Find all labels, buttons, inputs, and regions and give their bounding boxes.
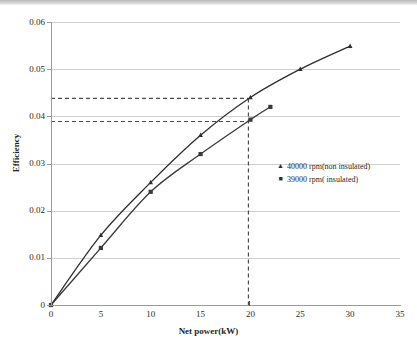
x-tick-label: 20 — [235, 310, 265, 319]
y-tick-label: 0.01 — [29, 253, 45, 262]
y-tick-mark — [47, 164, 51, 165]
x-tick-mark-20 — [249, 301, 250, 306]
x-axis-line — [51, 305, 401, 306]
x-tick-label: 0 — [36, 310, 66, 319]
scan-artifact-band — [0, 0, 417, 5]
y-tick-label: 0.04 — [29, 112, 45, 121]
x-tick-label: 30 — [335, 310, 365, 319]
x-tick-label: 35 — [385, 310, 415, 319]
y-tick-label: 0.03 — [29, 159, 45, 168]
y-tick-mark — [47, 211, 51, 212]
legend-label-series-2: 39000 rpm( insulated) — [287, 173, 358, 186]
data-point-marker-square — [248, 118, 252, 122]
legend-item-series-2: ■ 39000 rpm( insulated) — [276, 173, 370, 186]
data-point-marker-square — [149, 190, 153, 194]
y-tick-mark — [47, 116, 51, 117]
y-tick-mark — [47, 69, 51, 70]
data-point-marker-triangle — [348, 43, 353, 48]
x-tick-label: 5 — [86, 310, 116, 319]
data-point-marker-square — [268, 105, 272, 109]
legend-item-series-1: ▲ 40000 rpm(non insulated) — [276, 160, 370, 173]
series-line-2 — [51, 107, 270, 305]
y-tick-mark — [47, 22, 51, 23]
y-tick-label: 0.02 — [29, 206, 45, 215]
y-axis-line — [51, 22, 52, 306]
y-axis-label: Efficiency — [11, 113, 21, 193]
data-point-marker-square — [99, 246, 103, 250]
y-tick-label: 0.05 — [29, 65, 45, 74]
x-axis-label: Net power(kW) — [0, 326, 417, 336]
x-tick-label: 10 — [136, 310, 166, 319]
x-tick-label: 15 — [186, 310, 216, 319]
y-tick-mark — [47, 258, 51, 259]
y-tick-label: 0 — [41, 301, 46, 310]
y-tick-label: 0.06 — [29, 18, 45, 27]
square-marker-icon: ■ — [276, 175, 285, 184]
legend-label-series-1: 40000 rpm(non insulated) — [287, 160, 370, 173]
chart-legend: ▲ 40000 rpm(non insulated) ■ 39000 rpm( … — [276, 160, 370, 186]
triangle-marker-icon: ▲ — [276, 162, 285, 171]
y-tick-mark — [47, 305, 51, 306]
efficiency-vs-net-power-chart: 00.010.020.030.040.050.0605101520253035 … — [0, 0, 417, 352]
x-tick-label: 25 — [285, 310, 315, 319]
data-point-marker-square — [198, 152, 202, 156]
